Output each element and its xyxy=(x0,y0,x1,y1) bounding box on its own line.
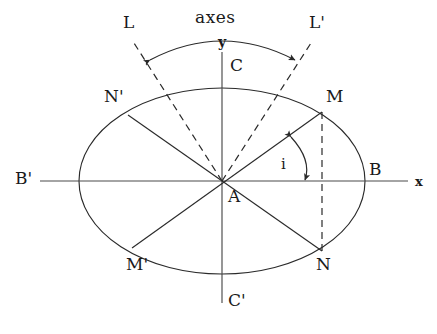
label-point-N-prime: N' xyxy=(104,88,124,105)
label-point-L: L xyxy=(123,14,134,31)
label-point-A: A xyxy=(228,188,240,205)
label-x-axis: x xyxy=(415,175,423,188)
label-point-L-prime: L' xyxy=(309,14,325,31)
angle-arc-i xyxy=(291,137,307,180)
chord-mm-prime xyxy=(132,112,322,248)
dashed-ray-al xyxy=(134,43,222,181)
label-point-B-prime: B' xyxy=(15,170,32,187)
geometry-diagram: L L' axes y C C' N' M M' N B' B x A i xyxy=(0,0,437,334)
label-y-axis: y xyxy=(218,35,226,49)
label-angle-i: i xyxy=(281,157,286,172)
label-axes-word: axes xyxy=(195,9,236,26)
label-point-N: N xyxy=(316,256,331,273)
label-point-C: C xyxy=(230,57,243,74)
label-point-M-prime: M' xyxy=(126,256,148,273)
label-point-B: B xyxy=(369,161,382,178)
label-point-C-prime: C' xyxy=(228,292,246,309)
label-point-M: M xyxy=(326,88,343,105)
